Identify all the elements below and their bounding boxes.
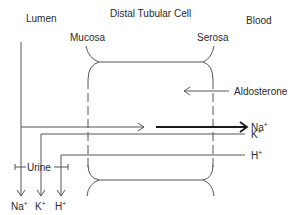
na-urine-path [17,42,25,196]
diagram-canvas: Lumen Distal Tubular Cell Blood Mucosa S… [0,0,298,215]
aldosterone-arrow [184,87,229,95]
cell-membrane-outline [86,46,214,196]
aldosterone-label: Aldosterone [234,86,288,97]
h-secretion-path [57,155,245,196]
lumen-label: Lumen [26,13,57,24]
diagram-title: Distal Tubular Cell [110,8,191,19]
blood-label: Blood [246,15,272,26]
urine-label: Urine [27,162,51,173]
h-urine-label: H+ [55,200,66,212]
k-urine-label: K+ [35,200,46,212]
mucosa-label: Mucosa [70,32,105,43]
na-urine-label: Na+ [11,200,28,212]
k-blood-label: K+ [251,128,262,140]
serosa-label: Serosa [197,32,229,43]
h-blood-label: H+ [251,149,262,161]
